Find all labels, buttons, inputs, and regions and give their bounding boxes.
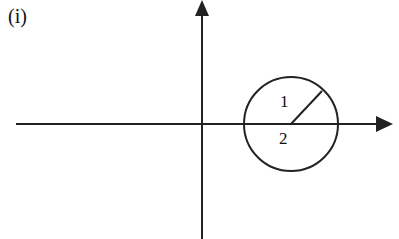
region-label-2: 2 [279,130,288,147]
region-label-1: 1 [280,93,289,110]
radius-line [291,91,322,124]
panel-label: (i) [8,6,27,26]
diagram-svg [0,0,399,239]
x-axis-arrow-icon [376,116,393,132]
y-axis-arrow-icon [195,0,209,16]
diagram-canvas: (i) 1 2 [0,0,399,239]
